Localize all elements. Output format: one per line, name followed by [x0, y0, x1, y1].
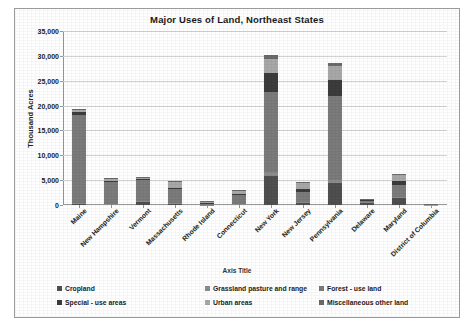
bar-segment[interactable]: [72, 115, 86, 203]
y-axis-tick-label: 20,000: [38, 102, 59, 109]
bar-segment[interactable]: [136, 179, 150, 181]
legend-label: Grassland pasture and range: [213, 285, 307, 292]
bar-segment[interactable]: [264, 172, 278, 175]
legend-label: Miscellaneous other land: [327, 299, 408, 306]
chart-legend: CroplandGrassland pasture and rangeFores…: [57, 285, 447, 313]
bar-slot: [351, 31, 383, 205]
bar-segment[interactable]: [232, 191, 246, 194]
bar-segment[interactable]: [296, 182, 310, 183]
x-axis-title: Axis Title: [15, 267, 459, 274]
y-axis-tick-label: 0: [55, 202, 59, 209]
y-axis-tick-label: 30,000: [38, 52, 59, 59]
bar-segment[interactable]: [360, 199, 374, 200]
y-axis-tick-label: 25,000: [38, 77, 59, 84]
x-axis-tick-label: Vermont: [88, 207, 152, 271]
plot-area: 05,00010,00015,00020,00025,00030,00035,0…: [63, 31, 447, 205]
bar-segment[interactable]: [168, 181, 182, 182]
bar-segment[interactable]: [264, 59, 278, 73]
bar-segment[interactable]: [296, 192, 310, 201]
bar-segment[interactable]: [328, 63, 342, 66]
legend-swatch-icon: [205, 300, 210, 305]
bar-segment[interactable]: [72, 112, 86, 115]
legend-item[interactable]: Urban areas: [205, 299, 252, 306]
bar-slot: [159, 31, 191, 205]
bar-segment[interactable]: [104, 181, 118, 183]
bar-segment[interactable]: [392, 198, 406, 205]
bar-segment[interactable]: [392, 181, 406, 184]
bar-segment[interactable]: [136, 177, 150, 178]
legend-swatch-icon: [319, 300, 324, 305]
bar-segment[interactable]: [232, 190, 246, 191]
legend-item[interactable]: Special - use areas: [57, 299, 126, 306]
bar-segment[interactable]: [200, 202, 214, 203]
bar-segment[interactable]: [328, 180, 342, 183]
y-axis-tick-mark: [60, 205, 63, 206]
bar-slot: [127, 31, 159, 205]
legend-label: Special - use areas: [65, 299, 126, 306]
bar-slot: [255, 31, 287, 205]
bar-segment[interactable]: [72, 109, 86, 110]
legend-item[interactable]: Forest - use land: [319, 285, 381, 292]
bar-slot: [191, 31, 223, 205]
bar-segment[interactable]: [136, 201, 150, 203]
legend-item[interactable]: Cropland: [57, 285, 95, 292]
y-axis-tick-label: 35,000: [38, 28, 59, 35]
bar-slot: [383, 31, 415, 205]
bar-segment[interactable]: [392, 174, 406, 175]
x-axis-tick-label: Maine: [69, 207, 88, 226]
legend-swatch-icon: [205, 286, 210, 291]
bar-segment[interactable]: [168, 189, 182, 203]
bar-segment[interactable]: [136, 180, 150, 200]
bar-segment[interactable]: [296, 189, 310, 192]
bar-segment[interactable]: [360, 201, 374, 203]
bar-segment[interactable]: [392, 185, 406, 197]
bar-slot: [287, 31, 319, 205]
x-axis-labels: MaineNew HampshireVermontMassachusettsRh…: [63, 207, 447, 269]
bar-segment[interactable]: [264, 73, 278, 92]
legend-swatch-icon: [57, 300, 62, 305]
bar-segment[interactable]: [328, 80, 342, 96]
bar-segment[interactable]: [328, 66, 342, 79]
bar-segment[interactable]: [328, 183, 342, 205]
bar-slot: [63, 31, 95, 205]
legend-item[interactable]: Miscellaneous other land: [319, 299, 408, 306]
y-axis-tick-label: 10,000: [38, 152, 59, 159]
bar-segment[interactable]: [296, 183, 310, 189]
legend-label: Forest - use land: [327, 285, 381, 292]
bar-segment[interactable]: [72, 110, 86, 111]
chart-title: Major Uses of Land, Northeast States: [15, 14, 459, 25]
y-axis-tick-label: 15,000: [38, 127, 59, 134]
bar-segment[interactable]: [328, 96, 342, 180]
bar-segment[interactable]: [168, 182, 182, 188]
bar-segment[interactable]: [136, 177, 150, 178]
bar-segment[interactable]: [392, 197, 406, 198]
bar-segment[interactable]: [104, 178, 118, 179]
bar-segment[interactable]: [264, 176, 278, 205]
chart-container: Major Uses of Land, Northeast States Tho…: [14, 8, 460, 318]
y-axis-title: Thousand Acres: [26, 79, 35, 159]
bar-slot: [223, 31, 255, 205]
legend-swatch-icon: [319, 286, 324, 291]
bar-segment[interactable]: [168, 188, 182, 190]
bar-segment[interactable]: [104, 178, 118, 180]
legend-label: Urban areas: [213, 299, 252, 306]
legend-swatch-icon: [57, 286, 62, 291]
bar-slot: [319, 31, 351, 205]
bar-segment[interactable]: [104, 182, 118, 203]
bar-segment[interactable]: [264, 55, 278, 58]
bar-slot: [95, 31, 127, 205]
y-axis-tick-label: 5,000: [41, 177, 59, 184]
bar-segment[interactable]: [264, 92, 278, 173]
legend-label: Cropland: [65, 285, 95, 292]
bar-segment[interactable]: [232, 194, 246, 195]
bar-segment[interactable]: [392, 175, 406, 181]
bar-slot: [415, 31, 447, 205]
legend-item[interactable]: Grassland pasture and range: [205, 285, 307, 292]
bar-segment[interactable]: [232, 195, 246, 203]
